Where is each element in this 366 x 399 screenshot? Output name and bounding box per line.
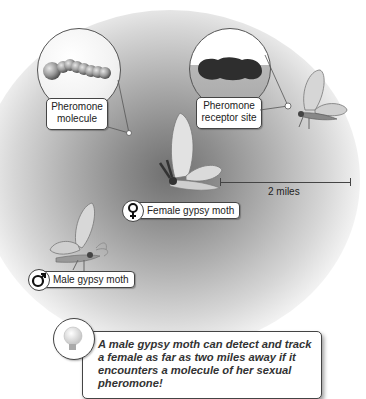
female-label: Female gypsy moth (128, 202, 240, 219)
male-label-text: Male gypsy moth (53, 274, 129, 285)
pheromone-molecule-label: Pheromone molecule (46, 98, 108, 130)
male-label: Male gypsy moth (34, 271, 135, 288)
male-moth-illustration (48, 200, 118, 275)
female-symbol-icon (122, 200, 144, 222)
lightbulb-icon (53, 318, 95, 360)
label-line-1: Pheromone (47, 101, 107, 113)
scale-tick-right (350, 178, 351, 186)
distance-scale-line (220, 182, 350, 183)
molecule-pointer-lines (100, 70, 140, 140)
fact-note-box: A male gypsy moth can detect and track a… (82, 331, 322, 399)
moth-receptor-illustration (285, 65, 355, 135)
female-label-text: Female gypsy moth (147, 205, 234, 216)
male-symbol-icon (28, 269, 50, 291)
female-moth-illustration (150, 108, 225, 193)
label-line-2: molecule (47, 113, 107, 125)
fact-note-text: A male gypsy moth can detect and track a… (98, 338, 320, 390)
distance-label: 2 miles (268, 186, 300, 197)
